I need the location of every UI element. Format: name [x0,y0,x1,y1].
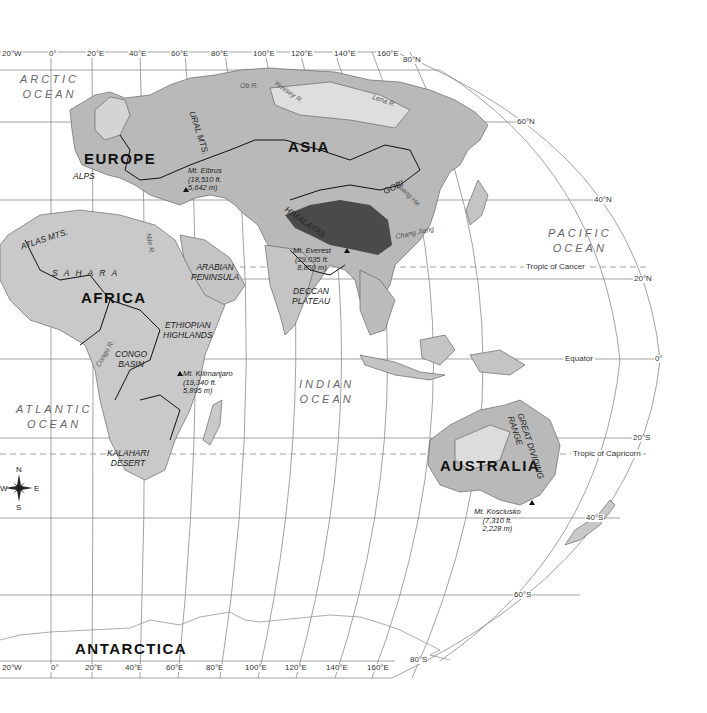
ocean-name-line: INDIAN [299,377,354,392]
lon-label: 20°W [1,664,23,672]
lon-label: 100°E [244,664,268,672]
lon-label: 20°E [84,664,103,672]
lon-label: 160°E [366,664,390,672]
lon-label: 60°E [170,50,189,58]
mt-kosciusko-label: Mt. Kosciusko (7,310 ft. 2,228 m) [474,508,521,534]
lat-label-equator-0: 0° [654,355,664,363]
lat-label-80s: 80°S [409,656,428,664]
feature-line: DESERT [107,459,149,469]
pacific-ocean-label: PACIFIC OCEAN [548,226,612,256]
feature-line: PLATEAU [292,297,330,307]
congo-basin-label: CONGO BASIN [115,350,147,370]
indian-ocean-label: INDIAN OCEAN [299,377,354,407]
antarctica-label: ANTARCTICA [75,641,187,656]
feature-line: BASIN [115,360,147,370]
mt-kilimanjaro-label: Mt. Kilimanjaro (19,340 ft. 5,895 m) [183,370,233,396]
lat-label-40s: 40°S [585,514,604,522]
ethiopian-highlands-label: ETHIOPIAN HIGHLANDS [163,321,213,341]
lon-label: 20°W [1,50,23,58]
lon-label: 100°E [252,50,276,58]
peak-elevation-m: 8,850 m) [293,264,331,273]
lat-label-20n: 20°N [633,275,653,283]
deccan-plateau-label: DECCAN PLATEAU [292,287,330,307]
tropic-of-cancer-label: Tropic of Cancer [524,263,587,271]
kalahari-desert-label: KALAHARI DESERT [107,449,149,469]
compass-south: S [16,503,21,512]
mt-everest-label: Mt. Everest (29,035 ft. 8,850 m) [293,247,331,273]
compass-rose-icon [5,474,33,502]
peak-elevation-m: 5,895 m) [183,387,233,396]
ocean-name-line: OCEAN [20,87,79,102]
ocean-name-line: OCEAN [16,417,92,432]
peak-elevation-m: 2,228 m) [474,525,521,534]
asia-label: ASIA [288,139,330,154]
ocean-name-line: OCEAN [299,392,354,407]
mt-elbrus-label: Mt. Elbrus (18,510 ft. 5,642 m) [188,167,222,193]
ocean-name-line: ARCTIC [20,72,79,87]
lon-label: 0° [50,664,60,672]
lat-label-60s: 60°S [513,591,532,599]
lon-label: 0° [48,50,58,58]
ob-river-label: Ob R. [240,82,258,89]
compass-north: N [16,465,22,474]
arabian-peninsula-label: ARABIAN PENINSULA [191,263,239,283]
lon-label: 40°E [128,50,147,58]
lon-label: 120°E [284,664,308,672]
compass-west: W [0,484,8,493]
sahara-label: S A H A R A [52,269,119,279]
africa-label: AFRICA [81,290,147,305]
tropic-of-capricorn-label: Tropic of Capricorn [571,450,643,458]
atlantic-ocean-label: ATLANTIC OCEAN [16,402,92,432]
lon-label: 140°E [325,664,349,672]
lon-label: 140°E [333,50,357,58]
lat-label-20s: 20°S [632,434,651,442]
lat-label-60n: 60°N [516,118,536,126]
lon-label: 160°E [376,50,400,58]
lon-label: 80°E [205,664,224,672]
lon-label: 40°E [124,664,143,672]
lat-label-80n: 80°N [402,56,422,64]
lat-label-40n: 40°N [593,196,613,204]
lon-label: 120°E [290,50,314,58]
ocean-name-line: PACIFIC [548,226,612,241]
antarctica [0,612,450,660]
alps-label: ALPS [73,172,95,182]
feature-line: PENINSULA [191,273,239,283]
lon-label: 20°E [86,50,105,58]
lon-label: 80°E [210,50,229,58]
arctic-ocean-label: ARCTIC OCEAN [20,72,79,102]
feature-line: HIGHLANDS [163,331,213,341]
compass-east: E [34,484,39,493]
europe-label: EUROPE [84,151,156,166]
ocean-name-line: OCEAN [548,241,612,256]
equator-label: Equator [563,355,595,363]
ocean-name-line: ATLANTIC [16,402,92,417]
peak-elevation-m: 5,642 m) [188,184,222,193]
lon-label: 60°E [165,664,184,672]
